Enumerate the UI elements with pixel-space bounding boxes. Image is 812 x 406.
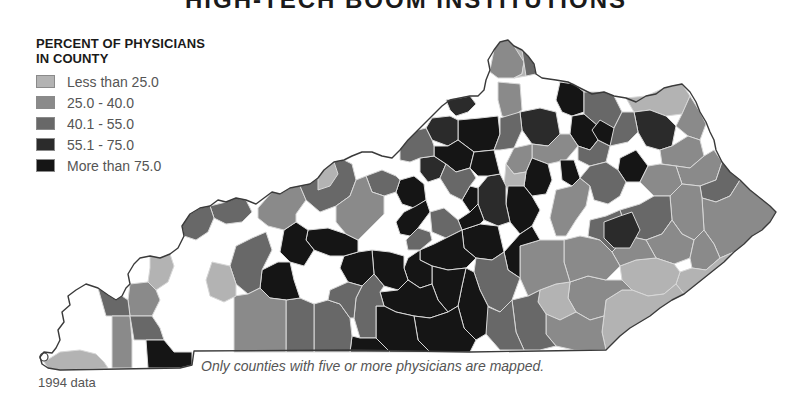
legend-item-25-40: 25.0 - 40.0 bbox=[36, 92, 205, 113]
legend-label: 25.0 - 40.0 bbox=[67, 95, 134, 111]
county-c67 bbox=[400, 128, 434, 162]
legend-swatch bbox=[36, 138, 55, 151]
county-c95 bbox=[112, 316, 132, 368]
legend-swatch bbox=[36, 117, 55, 130]
legend-swatch bbox=[36, 75, 55, 88]
legend-swatch bbox=[36, 96, 55, 109]
legend-item-gt75: More than 75.0 bbox=[36, 155, 205, 176]
county-c8 bbox=[626, 84, 690, 116]
legend-label: 55.1 - 75.0 bbox=[67, 137, 134, 153]
legend-swatch bbox=[36, 159, 55, 172]
legend-items: Less than 25.0 25.0 - 40.0 40.1 - 55.0 5… bbox=[36, 71, 205, 176]
legend-item-55-75: 55.1 - 75.0 bbox=[36, 134, 205, 155]
legend-item-40-55: 40.1 - 55.0 bbox=[36, 113, 205, 134]
legend-label: Less than 25.0 bbox=[67, 74, 159, 90]
legend-label: More than 75.0 bbox=[67, 158, 161, 174]
map-note: Only counties with five or more physicia… bbox=[201, 358, 544, 374]
legend: PERCENT OF PHYSICIANS IN COUNTY Less tha… bbox=[36, 36, 205, 176]
county-c79 bbox=[286, 298, 314, 352]
data-year: 1994 data bbox=[38, 375, 96, 390]
county-c1 bbox=[490, 40, 524, 78]
legend-title-line1: PERCENT OF PHYSICIANS bbox=[36, 36, 205, 51]
legend-title-line2: IN COUNTY bbox=[36, 51, 205, 66]
legend-item-lt25: Less than 25.0 bbox=[36, 71, 205, 92]
legend-label: 40.1 - 55.0 bbox=[67, 116, 134, 132]
